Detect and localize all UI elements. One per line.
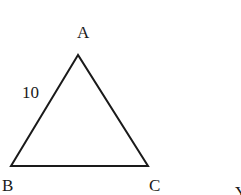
triangle-abc: [11, 55, 148, 166]
side-label-ab: 10: [22, 84, 39, 101]
vertex-label-a: A: [77, 24, 89, 41]
vertex-label-b: B: [2, 177, 13, 194]
vertex-label-c: C: [149, 177, 160, 194]
partial-label-y: Y: [235, 184, 241, 195]
